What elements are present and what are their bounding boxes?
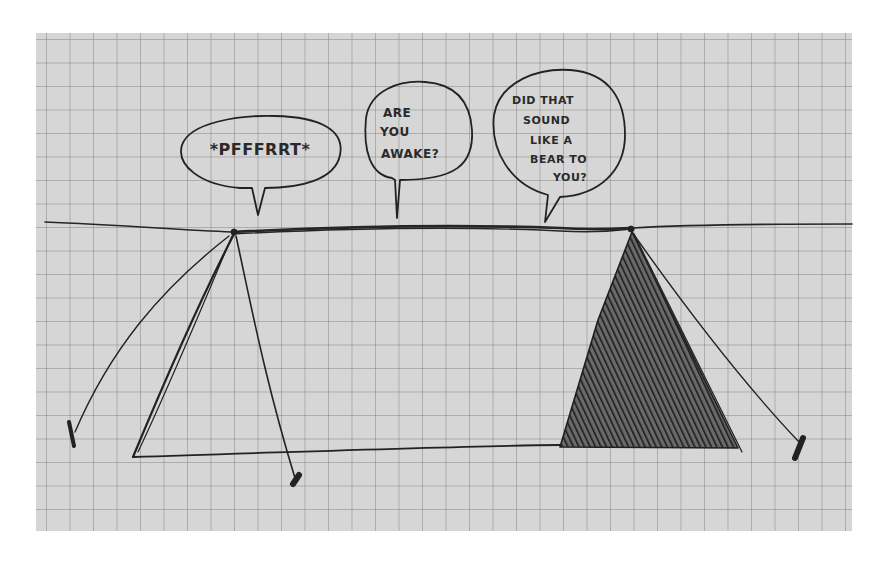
speech-bubble-middle: ARE YOU AWAKE? bbox=[365, 82, 472, 218]
left-tent bbox=[69, 229, 560, 484]
tent-stake bbox=[795, 438, 803, 458]
speech-bubble-right: DID THAT SOUND LIKE A BEAR TO YOU? bbox=[493, 70, 625, 222]
bubble-text-left: *PFFFRRT* bbox=[210, 140, 311, 159]
bubble-text-right: DID THAT SOUND LIKE A BEAR TO YOU? bbox=[512, 94, 591, 184]
sketch-drawing: *PFFFRRT* ARE YOU AWAKE? DID THAT SOUND … bbox=[0, 0, 882, 566]
ridge-line bbox=[45, 222, 852, 234]
speech-bubble-left: *PFFFRRT* bbox=[181, 116, 341, 215]
right-tent bbox=[560, 226, 803, 458]
tent-stake bbox=[69, 422, 74, 446]
bubble-text-middle: ARE YOU AWAKE? bbox=[379, 106, 439, 161]
